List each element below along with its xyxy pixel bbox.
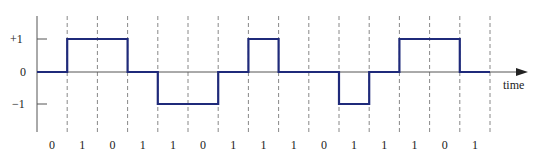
bit-label: 1 [79,138,85,152]
arrow-icon [516,68,528,76]
bit-label: 1 [381,138,387,152]
time-label: time [503,78,524,92]
bit-label: 0 [110,138,116,152]
bit-label: 1 [291,138,297,152]
bit-label: 0 [200,138,206,152]
bipolar-ami-diagram: time +1 0 −1 010110111011101 [0,0,553,155]
y-label-minus-one: −1 [12,97,25,111]
bit-label: 0 [442,138,448,152]
bit-label: 1 [472,138,478,152]
bit-label: 1 [140,138,146,152]
bit-label: 1 [261,138,267,152]
bit-boundary-lines [67,16,490,132]
bit-label: 0 [321,138,327,152]
bit-label: 1 [412,138,418,152]
y-label-zero: 0 [20,65,26,79]
bit-labels: 010110111011101 [49,138,478,152]
bit-label: 0 [49,138,55,152]
bit-label: 1 [170,138,176,152]
bit-label: 1 [351,138,357,152]
y-label-plus-one: +1 [10,32,23,46]
bit-label: 1 [230,138,236,152]
